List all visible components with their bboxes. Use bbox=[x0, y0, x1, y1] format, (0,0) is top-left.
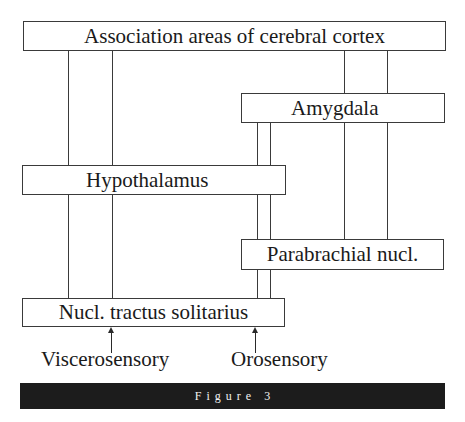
connection-line-amygdala-nts-right bbox=[270, 122, 271, 298]
input-label-orosensory: Orosensory bbox=[231, 349, 328, 370]
node-hypothalamus: Hypothalamus bbox=[22, 165, 286, 195]
node-amygdala-label: Amygdala bbox=[291, 98, 378, 119]
node-cerebral-cortex-label: Association areas of cerebral cortex bbox=[84, 26, 385, 47]
node-cerebral-cortex: Association areas of cerebral cortex bbox=[23, 21, 446, 51]
node-nucleus-tractus-solitarius-label: Nucl. tractus solitarius bbox=[59, 302, 249, 323]
node-parabrachial-nucleus: Parabrachial nucl. bbox=[241, 239, 444, 270]
orosensory-arrow-shaft bbox=[255, 332, 256, 353]
node-nucleus-tractus-solitarius: Nucl. tractus solitarius bbox=[22, 298, 285, 327]
connection-line-cortex-amygdala-left bbox=[344, 50, 345, 240]
orosensory-arrow-head-icon bbox=[252, 327, 258, 333]
figure-caption-label: Figure 3 bbox=[190, 389, 275, 404]
input-label-viscerosensory: Viscerosensory bbox=[41, 349, 169, 370]
node-amygdala: Amygdala bbox=[241, 93, 445, 123]
viscerosensory-arrow-head-icon bbox=[108, 327, 114, 333]
viscerosensory-arrow-shaft bbox=[111, 332, 112, 353]
figure-caption-bar: Figure 3 bbox=[20, 383, 445, 409]
node-hypothalamus-label: Hypothalamus bbox=[86, 170, 208, 191]
connection-line-cortex-amygdala-right bbox=[387, 50, 388, 240]
connection-line-amygdala-nts-left bbox=[257, 122, 258, 298]
node-parabrachial-nucleus-label: Parabrachial nucl. bbox=[267, 244, 419, 265]
